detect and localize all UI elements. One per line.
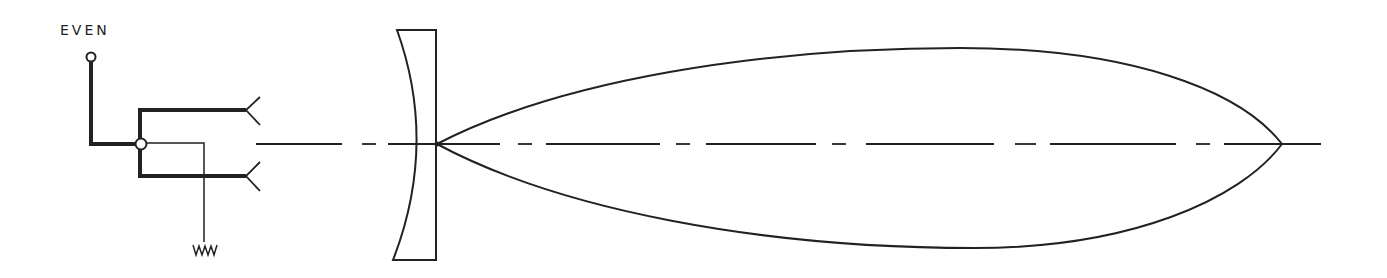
upper-horn-icon (246, 97, 260, 125)
phase-center-dot (435, 142, 440, 147)
matched-load-resistor-icon (193, 245, 217, 255)
feed-network (87, 53, 261, 256)
dielectric-lens-icon (393, 30, 436, 260)
radiation-pattern-lobe-icon (437, 48, 1282, 248)
sum-pattern-diagram: EVEN (0, 0, 1387, 278)
diagram-svg (0, 0, 1387, 278)
input-line (91, 62, 137, 144)
load-line (147, 143, 204, 242)
lower-horn-icon (246, 162, 260, 191)
hybrid-junction-icon (136, 139, 147, 150)
input-terminal-icon (87, 53, 96, 62)
even-terminal-label: EVEN (60, 22, 110, 38)
